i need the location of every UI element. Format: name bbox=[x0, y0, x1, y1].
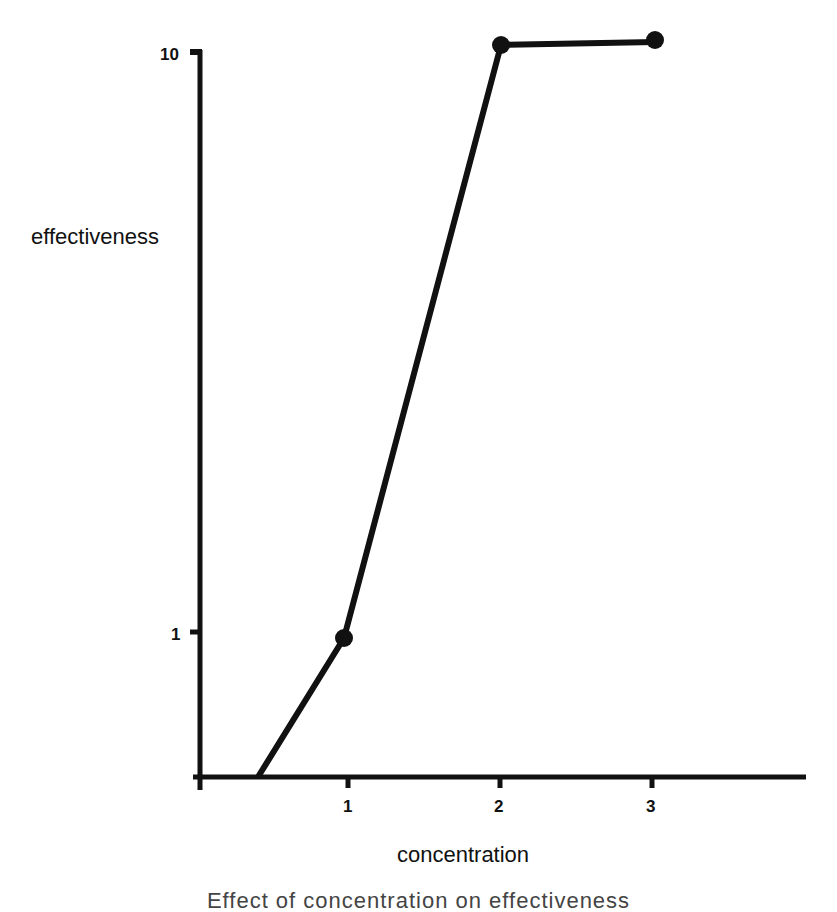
y-tick-label-1: 1 bbox=[171, 625, 180, 644]
x-tick-label-3: 3 bbox=[646, 797, 655, 816]
data-line bbox=[258, 42, 655, 777]
data-point-1 bbox=[335, 629, 353, 647]
data-point-3 bbox=[646, 31, 664, 49]
x-tick-label-2: 2 bbox=[494, 797, 503, 816]
y-tick-label-10: 10 bbox=[160, 45, 179, 64]
figure-caption: Effect of concentration on effectiveness bbox=[0, 888, 837, 912]
y-axis-label: effectiveness bbox=[31, 224, 159, 249]
x-tick-label-1: 1 bbox=[343, 797, 352, 816]
x-axis-label: concentration bbox=[397, 842, 529, 867]
data-point-2 bbox=[492, 36, 510, 54]
